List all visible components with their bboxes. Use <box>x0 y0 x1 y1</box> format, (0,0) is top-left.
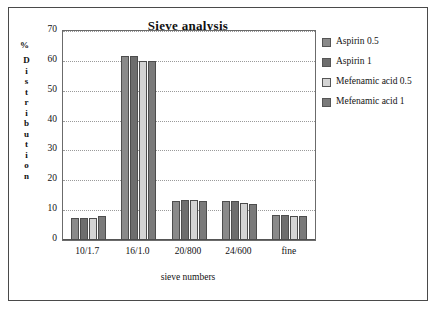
legend-label: Mefenamic acid 1 <box>336 96 405 107</box>
x-axis-title: sieve numbers <box>62 272 314 282</box>
gridline <box>63 91 315 92</box>
x-tick-label: fine <box>264 246 314 256</box>
y-tick-label: 70 <box>31 24 57 34</box>
y-tick-label: 60 <box>31 54 57 64</box>
y-axis-unit: % <box>20 40 29 50</box>
y-tick-label: 0 <box>31 233 57 243</box>
bar <box>121 56 129 240</box>
legend-item: Aspirin 0.5 <box>322 36 418 47</box>
bar <box>272 215 280 240</box>
legend-swatch-icon <box>322 38 331 47</box>
legend-swatch-icon <box>322 58 331 67</box>
chart-legend: Aspirin 0.5 Aspirin 1 Mefenamic acid 0.5… <box>322 36 418 116</box>
bar <box>89 218 97 240</box>
chart-screenshot: Sieve analysis % Distribution 0102030405… <box>0 0 437 309</box>
bar <box>172 201 180 240</box>
bar <box>139 61 147 240</box>
plot-inner <box>63 31 315 240</box>
plot-area <box>62 30 316 241</box>
legend-item: Aspirin 1 <box>322 56 418 67</box>
gridline <box>63 61 315 62</box>
gridline <box>63 150 315 151</box>
y-tick-label: 20 <box>31 173 57 183</box>
x-tick-label: 16/1.0 <box>112 246 162 256</box>
legend-label: Mefenamic acid 0.5 <box>336 76 412 87</box>
bar <box>231 201 239 240</box>
bar <box>80 218 88 240</box>
bar <box>290 216 298 240</box>
bar <box>281 215 289 240</box>
bar <box>130 56 138 240</box>
gridline <box>63 121 315 122</box>
legend-label: Aspirin 1 <box>336 56 372 67</box>
y-tick-label: 30 <box>31 143 57 153</box>
bar <box>240 203 248 240</box>
y-tick-label: 10 <box>31 203 57 213</box>
bar <box>299 216 307 240</box>
legend-label: Aspirin 0.5 <box>336 36 379 47</box>
gridline <box>63 31 315 32</box>
x-tick-label: 24/600 <box>213 246 263 256</box>
bar <box>222 201 230 240</box>
bar <box>199 201 207 240</box>
bar <box>181 200 189 240</box>
y-tick-label: 50 <box>31 84 57 94</box>
bar <box>148 61 156 240</box>
y-tick-label: 40 <box>31 114 57 124</box>
bar <box>249 204 257 240</box>
x-tick-label: 20/800 <box>163 246 213 256</box>
legend-item: Mefenamic acid 1 <box>322 96 418 107</box>
bar <box>98 216 106 240</box>
legend-item: Mefenamic acid 0.5 <box>322 76 418 87</box>
x-tick-label: 10/1.7 <box>62 246 112 256</box>
bar <box>190 200 198 240</box>
legend-swatch-icon <box>322 78 331 87</box>
bar <box>71 218 79 240</box>
gridline <box>63 180 315 181</box>
legend-swatch-icon <box>322 98 331 107</box>
